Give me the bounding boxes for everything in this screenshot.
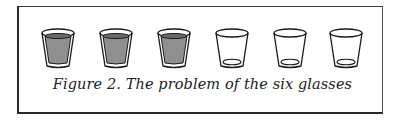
- glasses-row: [0, 0, 405, 125]
- full-glass-icon: [98, 28, 134, 70]
- full-glass-icon: [40, 28, 76, 70]
- full-glass-icon: [156, 28, 192, 70]
- empty-glass-icon: [272, 28, 308, 70]
- empty-glass-icon: [328, 28, 364, 70]
- figure-caption: Figure 2. The problem of the six glasses: [0, 76, 405, 92]
- empty-glass-icon: [214, 28, 250, 70]
